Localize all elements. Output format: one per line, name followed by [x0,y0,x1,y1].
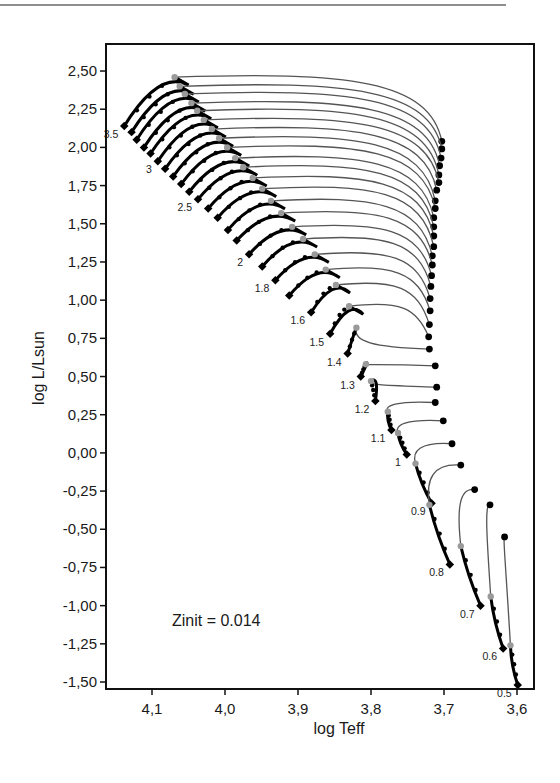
y-tick-label: 2,25 [68,100,97,117]
turnoff-marker [259,185,265,191]
hayashi-endpoint [449,440,456,447]
turnoff-marker [363,361,369,367]
contraction-curve [415,443,452,463]
contraction-curve [370,381,436,387]
track-point [218,176,222,180]
zams-endpoint [343,349,351,357]
track-point [177,108,181,112]
track-point [279,228,283,232]
track-point [175,153,179,157]
hayashi-endpoint [427,307,434,314]
turnoff-marker [323,266,329,272]
hayashi-endpoint [435,179,442,186]
turnoff-marker [300,236,306,242]
track-point [258,242,262,246]
track-0.7 [458,486,485,610]
track-2.2 [224,198,436,260]
hayashi-endpoint [427,283,434,290]
mass-label: 1.6 [291,314,306,326]
track-point [186,142,190,146]
track-point [352,331,356,335]
track-point [154,131,158,135]
track-point [432,517,436,521]
turnoff-marker [201,117,207,123]
turnoff-marker [182,91,188,97]
contraction-curve [428,465,460,505]
track-point [217,195,221,199]
turnoff-marker [412,460,418,466]
track-point [387,418,391,422]
hayashi-endpoint [427,295,434,302]
track-point [257,220,261,224]
track-point [388,422,392,426]
track-point [495,619,499,623]
track-1.2 [368,378,440,405]
turnoff-marker [395,430,401,436]
zams-endpoint [446,560,454,568]
track-point [165,92,169,96]
track-point [402,446,406,450]
turnoff-marker [209,126,215,132]
mass-labels: 3.532.521.81.61.51.41.31.21.110.90.80.70… [104,128,512,699]
track-point [198,133,202,137]
track-point [135,108,139,112]
radiative-segment [173,138,233,176]
x-tick-label: 4,1 [142,700,163,717]
track-point [468,573,472,577]
track-point [210,168,214,172]
track-point [159,110,163,114]
turnoff-marker [268,198,274,204]
y-tick-label: 2,50 [68,62,97,79]
x-axis-ticks: 4,14,03,93,83,73,6 [142,689,528,717]
track-point [207,186,211,190]
track-0.5 [501,534,522,690]
contraction-curve [397,420,443,433]
track-point [213,151,217,155]
track-point [147,123,151,127]
track-point [400,441,404,445]
contraction-curve [365,364,435,366]
track-point [202,159,206,163]
track-point [328,286,332,290]
mass-label: 0.6 [483,650,498,662]
track-point [238,196,242,200]
contraction-curve [356,328,429,349]
turnoff-marker [507,642,513,648]
y-tick-label: 0,75 [68,329,97,346]
track-0.6 [487,501,508,652]
track-point [183,116,187,120]
track-2.5 [194,164,437,230]
y-tick-label: 1,00 [68,291,97,308]
y-tick-label: 1,50 [68,215,97,232]
y-tick-label: -0,50 [63,520,97,537]
mass-label: 0.7 [460,608,475,620]
hayashi-endpoint [487,501,494,508]
plot-frame [106,44,534,689]
track-1.8 [271,251,433,302]
contraction-curve [349,304,429,336]
y-tick-label: -1,50 [63,673,97,690]
hayashi-endpoint [426,321,433,328]
track-point [303,255,307,259]
turnoff-marker [177,83,183,89]
track-point [498,633,502,637]
track-point [236,217,240,221]
y-tick-label: 0,25 [68,406,97,423]
track-point [172,125,176,129]
hayashi-endpoint [432,362,439,369]
track-point [147,94,151,98]
mass-label: 3 [146,163,152,175]
hayashi-endpoint [430,243,437,250]
radiative-segment [237,213,296,240]
track-point [171,100,175,104]
track-2.4 [204,175,437,240]
mass-label: 1.5 [310,336,325,348]
turnoff-marker [346,303,352,309]
track-point [372,393,376,397]
track-point [246,228,250,232]
track-1.1 [385,399,439,434]
track-point [421,480,425,484]
y-tick-label: -1,00 [63,597,97,614]
track-point [348,344,352,348]
y-axis-ticks: 2,502,252,001,751,501,251,000,750,500,25… [63,62,106,690]
